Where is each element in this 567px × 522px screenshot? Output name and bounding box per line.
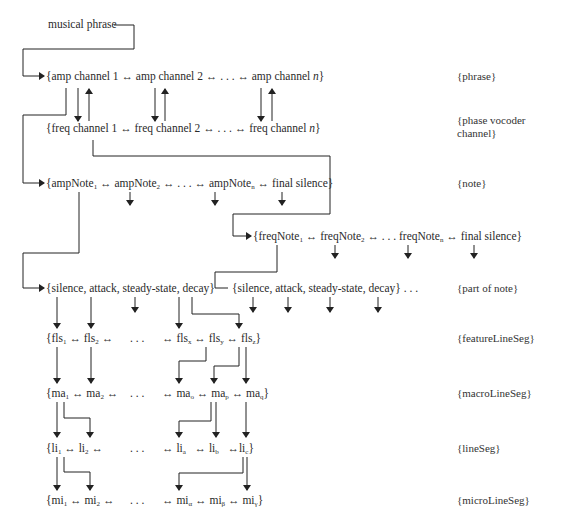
level-label-phase-vocoder-2: channel}	[457, 127, 496, 140]
node-amp-note-row: {ampNote1 ↔ ampNote2 ↔ . . . ↔ ampNoten …	[46, 177, 333, 194]
level-label-micro-line-seg: {microLineSeg}	[457, 494, 530, 507]
node-part-of-note-amp: {silence, attack, steady-state, decay}	[46, 282, 215, 295]
level-label-phrase: {phrase}	[457, 70, 496, 83]
node-li-left: {li1 ↔ li2 ↔	[46, 442, 103, 459]
node-freq-channel-row: {freq channel 1 ↔ freq channel 2 ↔ . . .…	[46, 122, 321, 135]
node-ma-right: ↔ mao ↔ map ↔ maq}	[162, 387, 269, 404]
node-li-right: ↔ lia ↔ lib ↔lic}	[162, 442, 254, 459]
ellipsis-li: . . .	[130, 442, 144, 455]
node-freq-note-row: {freqNote1 ↔ freqNote2 ↔ . . . freqNoten…	[253, 230, 522, 247]
ellipsis-fls: . . .	[130, 332, 144, 345]
level-label-phase-vocoder-1: {phase vocoder	[457, 114, 526, 127]
level-label-part-of-note: {part of note}	[457, 282, 518, 295]
level-label-feature-line-seg: {featureLineSeg}	[457, 332, 535, 345]
node-mi-right: ↔ miα ↔ miβ ↔ miγ}	[162, 494, 263, 511]
node-amp-channel-row: {amp channel 1 ↔ amp channel 2 ↔ . . . ↔…	[46, 70, 324, 83]
node-fls-right: ↔ flsx ↔ flsy ↔ flsz}	[162, 332, 261, 349]
node-part-of-note-freq: {silence, attack, steady-state, decay} .…	[232, 282, 418, 295]
node-mi-left: {mi1 ↔ mi2 ↔	[46, 494, 114, 511]
node-fls-left: {fls1 ↔ fls2 ↔	[46, 332, 113, 349]
ellipsis-ma: . . .	[130, 387, 144, 400]
level-label-note: {note}	[457, 177, 487, 190]
level-label-macro-line-seg: {macroLineSeg}	[457, 387, 532, 400]
level-label-line-seg: {lineSeg}	[457, 442, 501, 455]
root-node-musical-phrase: musical phrase	[48, 18, 117, 31]
ellipsis-mi: . . .	[130, 494, 144, 507]
node-ma-left: {ma1 ↔ ma2 ↔	[46, 387, 118, 404]
